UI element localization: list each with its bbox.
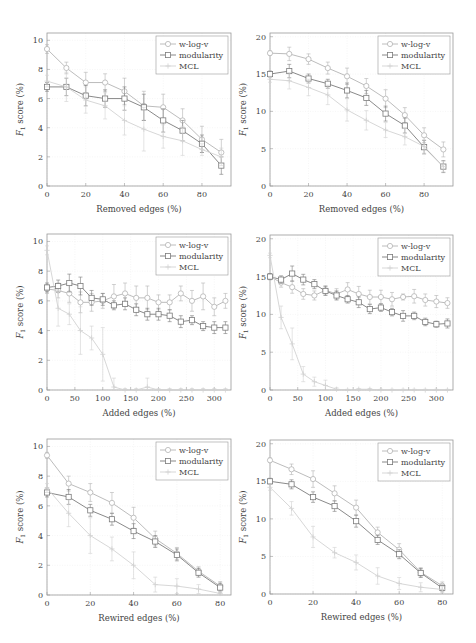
legend-label: w-log-v	[179, 40, 209, 49]
square-marker-icon	[389, 310, 394, 315]
circle-marker-icon	[165, 41, 170, 46]
legend: w-log-vmodularityMCL	[378, 36, 450, 74]
series-modularity	[44, 78, 224, 174]
x-tick-label: 80	[437, 598, 447, 607]
x-tick-label: 0	[44, 599, 49, 608]
x-tick-label: 300	[207, 394, 222, 403]
x-tick-label: 50	[70, 394, 80, 403]
circle-marker-icon	[383, 96, 388, 101]
x-tick-label: 50	[293, 394, 303, 403]
plus-marker-icon	[100, 352, 105, 357]
x-tick-label: 60	[394, 598, 404, 607]
square-marker-icon	[100, 297, 105, 302]
x-tick-label: 40	[351, 598, 361, 607]
y-tick-label: 10	[256, 310, 266, 319]
x-tick-label: 300	[429, 394, 444, 403]
square-marker-icon	[312, 282, 317, 287]
y-tick-label: 8	[38, 472, 43, 481]
y-tick-label: 15	[256, 273, 266, 282]
square-marker-icon	[267, 274, 272, 279]
square-marker-icon	[88, 508, 93, 513]
plus-marker-icon	[367, 387, 372, 392]
square-marker-icon	[67, 280, 72, 285]
y-tick-label: 20	[256, 235, 266, 244]
plus-marker-icon	[312, 379, 317, 384]
x-tick-label: 60	[380, 190, 390, 199]
plus-marker-icon	[418, 585, 423, 590]
y-axis-label: F1 score (%)	[238, 83, 249, 137]
square-marker-icon	[383, 111, 388, 116]
chart-removed-right: 02040608005101520Removed edges (%)F1 sco…	[238, 33, 453, 214]
circle-marker-icon	[434, 299, 439, 304]
x-tick-label: 0	[44, 190, 49, 199]
square-marker-icon	[364, 95, 369, 100]
plus-marker-icon	[161, 134, 166, 139]
plus-marker-icon	[178, 387, 183, 392]
circle-marker-icon	[189, 298, 194, 303]
square-marker-icon	[278, 277, 283, 282]
plus-marker-icon	[306, 85, 311, 90]
square-marker-icon	[367, 306, 372, 311]
plus-marker-icon	[412, 387, 417, 392]
x-tick-label: 40	[128, 599, 138, 608]
square-marker-icon	[153, 539, 158, 544]
square-marker-icon	[345, 297, 350, 302]
x-axis-label: Removed edges (%)	[96, 204, 181, 214]
circle-marker-icon	[345, 287, 350, 292]
x-tick-label: 80	[215, 599, 225, 608]
square-marker-icon	[344, 88, 349, 93]
plus-marker-icon	[356, 387, 361, 392]
x-tick-label: 80	[197, 190, 207, 199]
plus-marker-icon	[345, 387, 350, 392]
circle-marker-icon	[178, 291, 183, 296]
square-marker-icon	[356, 300, 361, 305]
chart-removed-left: 0204060800246810Removed edges (%)F1 scor…	[15, 33, 231, 214]
circle-marker-icon	[88, 490, 93, 495]
legend-label: modularity	[179, 252, 224, 261]
square-marker-icon	[412, 313, 417, 318]
y-tick-label: 20	[256, 440, 266, 449]
legend-label: MCL	[401, 264, 421, 273]
chart-rewired-right: 02040608005101520Rewired edges (%)F1 sco…	[238, 440, 453, 622]
chart-added-left: 0501001502002503000246810Added edges (%)…	[15, 234, 231, 418]
plus-marker-icon	[141, 127, 146, 132]
plus-marker-icon	[189, 387, 194, 392]
x-tick-labels: 020406080	[44, 592, 225, 608]
legend: w-log-vmodularityMCL	[156, 237, 228, 275]
square-marker-icon	[161, 118, 166, 123]
square-marker-icon	[196, 570, 201, 575]
circle-marker-icon	[367, 294, 372, 299]
plus-marker-icon	[219, 154, 224, 159]
chart-added-right: 05010015020025030005101520Added edges (%…	[238, 235, 453, 418]
y-tick-label: 6	[38, 95, 43, 104]
plus-marker-icon	[145, 384, 150, 389]
circle-marker-icon	[131, 515, 136, 520]
square-marker-icon	[165, 52, 170, 57]
x-tick-label: 0	[267, 598, 272, 607]
legend-label: w-log-v	[401, 447, 431, 456]
square-marker-icon	[378, 305, 383, 310]
plus-marker-icon	[223, 387, 228, 392]
square-marker-icon	[89, 295, 94, 300]
legend-label: modularity	[401, 253, 446, 262]
circle-marker-icon	[165, 447, 170, 452]
y-tick-label: 0	[261, 590, 266, 599]
square-marker-icon	[174, 552, 179, 557]
square-marker-icon	[402, 123, 407, 128]
square-marker-icon	[212, 325, 217, 330]
circle-marker-icon	[402, 112, 407, 117]
x-tick-label: 40	[119, 190, 129, 199]
y-tick-labels: 0246810	[33, 237, 50, 395]
legend-label: MCL	[179, 468, 199, 477]
legend-label: w-log-v	[401, 40, 431, 49]
square-marker-icon	[167, 313, 172, 318]
y-tick-label: 10	[33, 237, 43, 246]
x-tick-label: 200	[373, 394, 388, 403]
circle-marker-icon	[445, 300, 450, 305]
y-tick-label: 2	[38, 153, 43, 162]
square-marker-icon	[134, 307, 139, 312]
plus-marker-icon	[201, 387, 206, 392]
square-marker-icon	[423, 319, 428, 324]
y-axis-label: F1 score (%)	[15, 83, 26, 137]
legend-label: w-log-v	[401, 242, 431, 251]
